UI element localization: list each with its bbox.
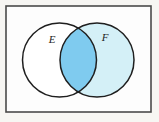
venn-diagram-canvas: E F bbox=[0, 0, 159, 122]
set-e-label: E bbox=[48, 33, 56, 45]
venn-diagram-figure: E F bbox=[0, 0, 159, 122]
set-f-label: F bbox=[101, 31, 109, 43]
